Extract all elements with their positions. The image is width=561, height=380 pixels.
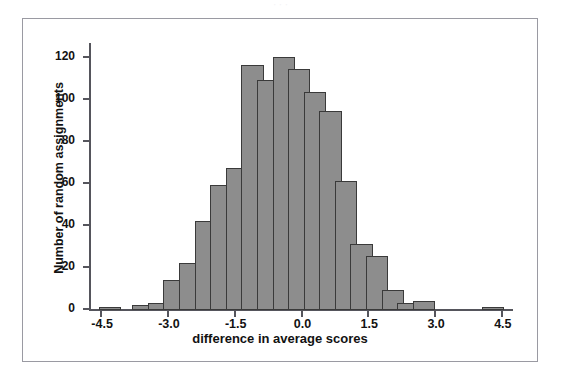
x-tick-label: 0.0 (278, 317, 328, 331)
y-tick-mark (83, 224, 89, 226)
plot-area: Number of random assignments difference … (23, 19, 537, 361)
y-tick-label: 120 (29, 49, 75, 63)
y-tick-label: 60 (29, 175, 75, 189)
y-tick-mark (83, 308, 89, 310)
y-tick-mark (83, 182, 89, 184)
x-tick-label: -3.0 (144, 317, 194, 331)
y-tick-mark (83, 56, 89, 58)
cropped-caption-artifact: · · · (0, 0, 561, 10)
y-tick-label: 80 (29, 133, 75, 147)
y-tick-label: 20 (29, 259, 75, 273)
y-tick-label: 0 (29, 301, 75, 315)
histogram-bar (482, 307, 504, 310)
y-tick-label: 40 (29, 217, 75, 231)
y-tick-mark (83, 140, 89, 142)
figure-screenshot: · · · Number of random assignments diffe… (0, 0, 561, 380)
x-tick-label: -1.5 (211, 317, 261, 331)
figure-panel: Number of random assignments difference … (22, 18, 538, 362)
x-tick-label: 1.5 (344, 317, 394, 331)
x-tick-label: 3.0 (411, 317, 461, 331)
histogram-bar (413, 301, 435, 310)
x-tick-label: -4.5 (77, 317, 127, 331)
histogram-bar (99, 307, 121, 310)
x-tick-label: 4.5 (478, 317, 528, 331)
y-tick-mark (83, 266, 89, 268)
y-axis-line (89, 43, 91, 311)
y-tick-mark (83, 98, 89, 100)
y-tick-label: 100 (29, 91, 75, 105)
x-axis-title: difference in average scores (23, 331, 537, 346)
